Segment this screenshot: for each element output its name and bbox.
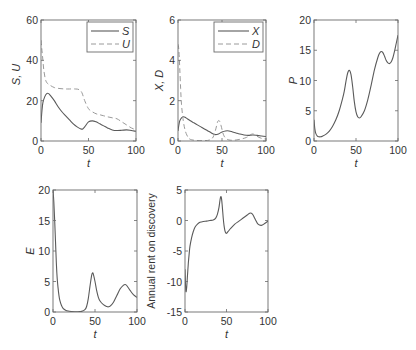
x-tick-label: 100 — [127, 144, 145, 156]
legend-label-d: D — [252, 38, 260, 50]
legend: XD — [214, 22, 263, 52]
x-tick-label: 50 — [350, 144, 362, 156]
plot-area-frame — [314, 20, 398, 141]
y-axis-label: S, U — [10, 64, 22, 85]
x-axis-label: t — [225, 328, 229, 340]
legend: SU — [87, 22, 133, 52]
series-line-d — [178, 44, 266, 140]
y-tick-label: 10 — [38, 245, 50, 257]
x-tick-label: 0 — [175, 144, 181, 156]
x-tick-label: 0 — [50, 315, 56, 327]
y-axis-label: P — [287, 76, 299, 84]
plot-area-frame — [185, 190, 268, 312]
y-tick-label: -15 — [167, 306, 182, 318]
x-tick-label: 50 — [83, 144, 95, 156]
y-tick-label: 0 — [305, 135, 311, 147]
y-tick-label: -10 — [167, 276, 182, 288]
y-tick-label: 15 — [299, 44, 311, 56]
legend-label-u: U — [122, 38, 130, 50]
legend-label-x: X — [251, 25, 260, 37]
x-tick-label: 50 — [221, 315, 233, 327]
x-tick-label: 100 — [257, 144, 275, 156]
x-axis-label: t — [93, 328, 97, 340]
y-axis-label: Annual rent on discovery — [145, 192, 157, 308]
x-tick-label: 0 — [311, 144, 317, 156]
y-tick-label: 4 — [169, 54, 175, 66]
y-tick-label: 5 — [44, 276, 50, 288]
series-line-p — [314, 35, 398, 137]
y-tick-label: 10 — [299, 75, 311, 87]
y-tick-label: 40 — [26, 54, 38, 66]
y-tick-label: 0 — [176, 215, 182, 227]
y-tick-label: 0 — [169, 135, 175, 147]
legend-label-s: S — [122, 25, 130, 37]
x-axis-label: t — [354, 157, 358, 169]
x-axis-label: t — [87, 157, 91, 169]
y-tick-label: 60 — [26, 14, 38, 26]
chart-panel-x-d: 0501000246tX, DXD — [153, 14, 275, 169]
y-axis-label: E — [24, 247, 36, 255]
figure-canvas: 0501000204060tS, USU 0501000246tX, DXD 0… — [0, 0, 416, 350]
y-axis-label: X, D — [153, 70, 165, 92]
x-tick-label: 100 — [389, 144, 407, 156]
y-tick-label: 20 — [38, 184, 50, 196]
y-tick-label: 20 — [299, 14, 311, 26]
series-line-u — [41, 40, 136, 130]
y-tick-label: 5 — [176, 184, 182, 196]
x-tick-label: 0 — [38, 144, 44, 156]
y-tick-label: 5 — [305, 105, 311, 117]
x-tick-label: 50 — [89, 315, 101, 327]
x-tick-label: 100 — [128, 315, 146, 327]
series-line-annual-rent-on-discovery — [185, 197, 268, 292]
chart-panel-p: 05010005101520tP — [287, 14, 407, 169]
series-line-e — [53, 190, 137, 312]
y-tick-label: 20 — [26, 95, 38, 107]
y-tick-label: -5 — [173, 245, 182, 257]
y-tick-label: 0 — [32, 135, 38, 147]
chart-panel-s-u: 0501000204060tS, USU — [10, 14, 145, 169]
plot-area-frame — [53, 190, 137, 312]
y-tick-label: 2 — [169, 95, 175, 107]
x-tick-label: 50 — [216, 144, 228, 156]
x-tick-label: 0 — [182, 315, 188, 327]
chart-panel-annual-rent: 050100-15-10-505tAnnual rent on discover… — [145, 184, 277, 340]
x-axis-label: t — [220, 157, 224, 169]
y-tick-label: 0 — [44, 306, 50, 318]
y-tick-label: 15 — [38, 215, 50, 227]
chart-panel-e: 05010005101520tE — [24, 184, 146, 340]
x-tick-label: 100 — [259, 315, 277, 327]
series-line-s — [41, 93, 136, 131]
y-tick-label: 6 — [169, 14, 175, 26]
